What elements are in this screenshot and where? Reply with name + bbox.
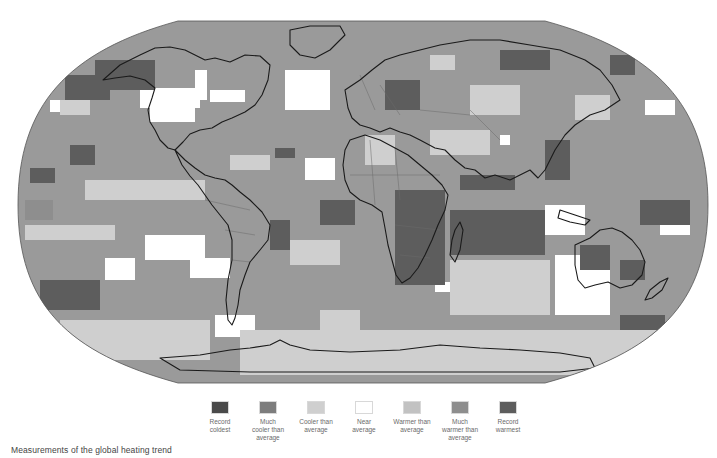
- anomaly-cell-near: [195, 70, 207, 100]
- legend-swatch: [307, 401, 325, 414]
- legend-label: Much cooler than average: [252, 418, 284, 442]
- anomaly-cell-record-warmest: [395, 190, 445, 285]
- anomaly-cell-record-warmest: [275, 148, 295, 158]
- legend-swatch: [355, 401, 373, 414]
- anomaly-cell-near: [105, 258, 135, 280]
- legend: Record coldestMuch cooler than averageCo…: [196, 401, 532, 442]
- legend-swatch: [403, 401, 421, 414]
- anomaly-cell-cooler: [240, 330, 660, 375]
- anomaly-cell-cooler: [430, 55, 455, 70]
- legend-item-much-cooler: Much cooler than average: [244, 401, 292, 442]
- anomaly-cell-record-warmest: [640, 200, 690, 225]
- anomaly-cell-near: [210, 90, 245, 102]
- anomaly-cell-cooler: [85, 180, 205, 200]
- legend-item-record-coldest: Record coldest: [196, 401, 244, 442]
- anomaly-cell-cooler: [60, 320, 210, 360]
- legend-label: Warmer than average: [393, 418, 430, 434]
- anomaly-cell-near: [285, 70, 330, 110]
- anomaly-cell-record-warmest: [30, 168, 55, 183]
- legend-label: Record warmest: [496, 418, 521, 434]
- anomaly-cell-record-warmest: [270, 220, 290, 250]
- anomaly-cell-cooler: [25, 225, 115, 240]
- anomaly-cell-near: [150, 100, 195, 122]
- anomaly-cell-near: [305, 158, 335, 180]
- anomaly-cell-cooler: [230, 155, 270, 170]
- anomaly-cell-much-warmer: [25, 200, 53, 220]
- anomaly-cell-record-warmest: [500, 50, 550, 70]
- anomaly-cell-record-warmest: [40, 280, 100, 310]
- map-canvas: [0, 0, 717, 395]
- legend-swatch: [499, 401, 517, 414]
- legend-label: Near average: [352, 418, 376, 434]
- legend-label: Much warmer than average: [442, 418, 478, 442]
- anomaly-cell-record-warmest: [385, 80, 420, 110]
- legend-item-record-warmest: Record warmest: [484, 401, 532, 442]
- anomaly-cell-record-warmest: [580, 245, 610, 270]
- anomaly-cell-record-warmest: [320, 200, 355, 225]
- anomaly-cell-record-warmest: [620, 260, 645, 280]
- anomaly-cell-near: [500, 135, 510, 145]
- legend-item-near: Near average: [340, 401, 388, 442]
- legend-swatch: [451, 401, 469, 414]
- anomaly-cell-cooler: [575, 95, 610, 120]
- anomaly-cell-cooler: [60, 100, 90, 115]
- legend-label: Cooler than average: [299, 418, 333, 434]
- legend-item-much-warmer: Much warmer than average: [436, 401, 484, 442]
- global-temperature-map: [0, 0, 717, 395]
- anomaly-cell-cooler: [450, 260, 550, 315]
- legend-swatch: [259, 401, 277, 414]
- anomaly-cell-record-warmest: [70, 145, 95, 165]
- legend-item-cooler: Cooler than average: [292, 401, 340, 442]
- anomaly-cell-record-warmest: [450, 210, 545, 255]
- anomaly-cell-cooler: [470, 85, 520, 115]
- anomaly-cell-near: [645, 100, 675, 115]
- anomaly-cell-record-warmest: [610, 55, 635, 75]
- legend-swatch: [211, 401, 229, 414]
- figure-caption: Measurements of the global heating trend: [11, 445, 172, 455]
- anomaly-cell-near: [190, 258, 230, 278]
- anomaly-cell-cooler: [290, 240, 340, 265]
- anomaly-cell-record-warmest: [65, 75, 110, 100]
- anomaly-cell-cooler: [430, 130, 490, 155]
- anomaly-cell-cooler: [320, 310, 360, 330]
- legend-item-warmer: Warmer than average: [388, 401, 436, 442]
- anomaly-cell-near: [145, 235, 205, 260]
- legend-label: Record coldest: [210, 418, 231, 434]
